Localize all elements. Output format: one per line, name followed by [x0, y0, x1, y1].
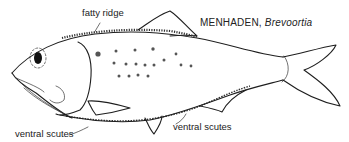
- spot: [153, 64, 156, 67]
- common-name: MENHADEN,: [200, 17, 262, 28]
- spot: [135, 63, 138, 66]
- genus-name: Brevoortia: [265, 17, 313, 28]
- eye: [34, 52, 42, 64]
- ventral-scutes-label-left: ventral scutes: [15, 129, 74, 139]
- back-outline: [12, 32, 283, 73]
- spot: [128, 75, 131, 78]
- pectoral-fin: [88, 101, 130, 115]
- shoulder-spot: [95, 51, 100, 56]
- ventral-scutes-label-right: ventral scutes: [173, 122, 232, 132]
- gill-cover: [56, 42, 91, 115]
- spot: [190, 65, 193, 68]
- fatty-ridge-label: fatty ridge: [82, 8, 124, 18]
- spot: [125, 63, 128, 66]
- menhaden-diagram: fatty ridge ventral scutes ventral scute…: [0, 0, 349, 142]
- spot: [115, 50, 118, 53]
- fatty-ridge: [62, 30, 198, 38]
- spot: [175, 53, 178, 56]
- spot: [113, 62, 116, 65]
- caudal-base: [282, 56, 288, 82]
- ventral-scutes-line: [66, 86, 250, 121]
- spot: [134, 49, 137, 52]
- spot: [144, 64, 147, 67]
- anal-fin: [200, 90, 246, 112]
- tail-fin: [283, 45, 340, 106]
- gill-inner: [50, 86, 65, 103]
- species-title: MENHADEN, Brevoortia: [200, 17, 312, 28]
- spot: [118, 75, 121, 78]
- spot: [180, 64, 183, 67]
- spot: [151, 47, 154, 50]
- body-spots: [95, 47, 192, 77]
- spot: [147, 75, 150, 78]
- spot: [163, 59, 166, 62]
- spot: [137, 74, 140, 77]
- head-outline: [12, 73, 72, 118]
